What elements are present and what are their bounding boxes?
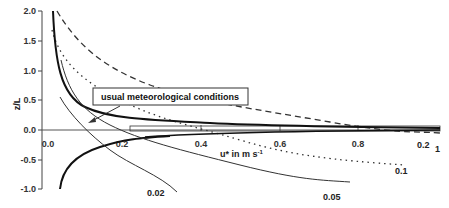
y-axis: 2.0 1.5 1.0 0.5 0.0 -0.5 -1.0 z/L	[12, 6, 42, 194]
x-tick-label: 0.6	[274, 139, 287, 149]
y-tick-label: -0.5	[20, 155, 36, 165]
x-tick-label: 0.0	[42, 139, 55, 149]
annotation-text: usual meteorological conditions	[101, 92, 239, 102]
y-tick-label: 1.5	[23, 36, 36, 46]
curve-label-0.05: 0.05	[323, 192, 341, 202]
curve-label-0.1: 0.1	[395, 166, 408, 176]
y-axis-title: z/L	[12, 97, 22, 110]
curve-label-0.02: 0.02	[147, 188, 165, 198]
x-axis: 0.0 0.2 0.4 0.6 0.8 u* in m s-1	[42, 130, 440, 159]
arrow-head-icon	[88, 117, 96, 123]
y-tick-label: -1.0	[20, 184, 36, 194]
x-tick-label: 0.4	[195, 139, 208, 149]
annotation: usual meteorological conditions	[88, 88, 248, 123]
x-tick-label: 0.8	[352, 139, 365, 149]
y-tick-label: 2.0	[23, 6, 36, 16]
x-axis-title: u* in m s-1	[220, 149, 264, 159]
chart: 2.0 1.5 1.0 0.5 0.0 -0.5 -1.0 z/L 0.0 0.…	[0, 0, 449, 208]
y-tick-label: 1.0	[23, 66, 36, 76]
curve-0.05	[61, 60, 350, 182]
curve-label-0.2: 0.2	[417, 140, 430, 150]
y-tick-label: 0.0	[23, 125, 36, 135]
y-tick-label: 0.5	[23, 95, 36, 105]
curve-label-1: 1	[435, 144, 440, 154]
